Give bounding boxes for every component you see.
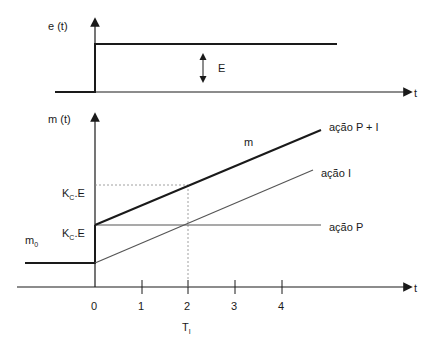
legend-pi: ação P + I <box>329 121 379 133</box>
tick-label-2: 2 <box>184 300 190 312</box>
pi-action-line <box>95 130 321 225</box>
i-action-line <box>95 170 313 263</box>
kce-bottom-label: KC.E <box>62 227 85 241</box>
e-axis-label: e (t) <box>48 20 68 32</box>
tick-label-1: 1 <box>138 300 144 312</box>
error-step-plot: e (t) E t <box>48 20 417 99</box>
e-t-label: t <box>414 87 417 99</box>
tick-label-0: 0 <box>91 300 97 312</box>
m-axis-label: m (t) <box>48 113 71 125</box>
legend-i: ação I <box>321 167 351 179</box>
controller-output-plot: m (t) t m0 KC.E KC.E m ação P + I ação I… <box>17 113 417 335</box>
amplitude-label: E <box>218 62 225 74</box>
control-action-diagram: e (t) E t m (t) t m0 KC.E KC.E m ação P … <box>0 0 435 351</box>
m0-label: m0 <box>25 234 38 248</box>
arrow-up-icon <box>200 53 207 60</box>
step-signal-line <box>55 44 337 92</box>
tick-label-3: 3 <box>231 300 237 312</box>
kce-top-label: KC.E <box>62 187 85 201</box>
legend-p: ação P <box>329 221 363 233</box>
ti-label: TI <box>182 321 191 335</box>
tick-label-4: 4 <box>278 300 284 312</box>
m-t-label: t <box>414 282 417 294</box>
arrow-down-icon <box>200 76 207 83</box>
m-curve-label: m <box>244 136 253 148</box>
